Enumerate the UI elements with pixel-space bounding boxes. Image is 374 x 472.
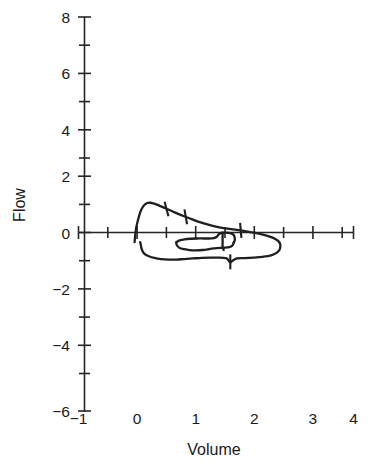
y-label-neg6: −6 bbox=[52, 403, 70, 420]
y-axis-tick-labels: 8 6 4 2 0 −2 −4 −6 bbox=[52, 9, 70, 420]
x-axis-tick-labels: −1 0 1 2 3 4 bbox=[70, 410, 359, 427]
x-axis-title: Volume bbox=[187, 441, 240, 458]
y-label-neg2: −2 bbox=[52, 281, 70, 298]
curve-inspiratory-limb bbox=[140, 242, 280, 262]
axes-group bbox=[78, 17, 354, 412]
y-label-0: 0 bbox=[61, 225, 70, 242]
marker-expiratory-3 bbox=[240, 223, 241, 238]
curve-tidal-loop-link bbox=[223, 233, 224, 250]
x-label-3: 3 bbox=[309, 410, 318, 427]
flow-volume-loop-chart: 8 6 4 2 0 −2 −4 −6 −1 0 1 bbox=[0, 0, 374, 472]
curve-tidal-loop-upper bbox=[176, 233, 234, 243]
y-label-6: 6 bbox=[61, 65, 70, 82]
chart-root: 8 6 4 2 0 −2 −4 −6 −1 0 1 bbox=[0, 0, 374, 472]
y-label-2: 2 bbox=[61, 168, 70, 185]
x-label-4: 4 bbox=[349, 410, 358, 427]
x-label-0: 0 bbox=[133, 410, 142, 427]
y-label-neg4: −4 bbox=[52, 337, 70, 354]
curve-tidal-loop-lower bbox=[176, 242, 233, 250]
marker-expiratory-2 bbox=[184, 209, 187, 224]
y-axis-title: Flow bbox=[11, 188, 28, 222]
x-label-neg1: −1 bbox=[70, 410, 88, 427]
y-label-8: 8 bbox=[61, 9, 70, 26]
curve-expiratory-limb bbox=[135, 203, 280, 242]
y-label-4: 4 bbox=[61, 122, 70, 139]
x-label-2: 2 bbox=[250, 410, 259, 427]
x-label-1: 1 bbox=[191, 410, 200, 427]
